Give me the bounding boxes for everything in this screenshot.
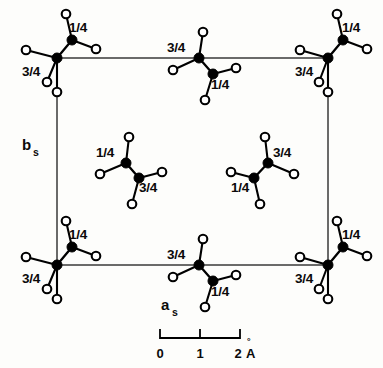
ligand-atom-corner-bottom-right-0-1 — [315, 285, 324, 294]
ligand-atom-corner-top-left-0-2 — [53, 88, 62, 97]
scale-unit-letter: A — [246, 346, 256, 361]
axis-label-b: b s — [22, 136, 39, 158]
height-label-corner-bottom-right-lower: 3/4 — [295, 271, 314, 286]
ligand-atom-corner-top-left-1-1 — [92, 45, 101, 54]
scale-bar: 0 1 2 A ° — [156, 329, 256, 361]
molecule-corner-top-left: 3/41/4 — [22, 10, 101, 97]
central-atom-corner-bottom-right-lower — [323, 260, 333, 270]
ligand-atom-corner-top-right-0-0 — [296, 46, 305, 55]
central-atom-edge-bottom-center-upper — [194, 260, 204, 270]
ligand-atom-corner-top-right-1-1 — [363, 45, 372, 54]
crystal-structure-figure: 3/41/43/41/43/41/41/43/43/41/43/41/43/41… — [0, 0, 383, 368]
ligand-atom-interior-left-1-0 — [158, 168, 167, 177]
ligand-atom-interior-left-1-1 — [128, 200, 137, 209]
ligand-atom-edge-bottom-center-1-0 — [232, 271, 241, 280]
ligand-atom-interior-right-0-0 — [261, 133, 270, 142]
ligand-atom-corner-bottom-left-1-0 — [62, 217, 71, 226]
height-label-corner-top-right-upper: 1/4 — [342, 20, 361, 35]
ligand-atom-corner-bottom-right-0-0 — [296, 253, 305, 262]
central-atom-corner-top-right-upper — [338, 35, 348, 45]
height-label-edge-top-center-upper: 3/4 — [167, 40, 186, 55]
height-label-corner-bottom-left-lower: 3/4 — [22, 271, 41, 286]
central-atom-interior-left-upper — [121, 158, 131, 168]
ligand-atom-corner-top-left-0-0 — [22, 46, 31, 55]
ligand-atom-corner-bottom-left-0-1 — [43, 285, 52, 294]
ligand-atom-edge-bottom-center-0-1 — [169, 273, 178, 282]
axis-b-letter: b — [22, 136, 31, 153]
molecule-interior-left: 1/43/4 — [96, 133, 167, 209]
ligand-atom-edge-bottom-center-1-1 — [201, 303, 210, 312]
ligand-atom-edge-top-center-1-0 — [232, 64, 241, 73]
ligand-atom-edge-top-center-0-1 — [169, 66, 178, 75]
ligand-atom-corner-bottom-right-1-0 — [333, 217, 342, 226]
ligand-atom-interior-left-0-1 — [96, 170, 105, 179]
ligand-atom-edge-top-center-1-1 — [201, 96, 210, 105]
central-atom-corner-bottom-left-lower — [52, 260, 62, 270]
ligand-atom-interior-left-0-0 — [125, 133, 134, 142]
molecule-corner-bottom-right: 3/41/4 — [295, 217, 371, 304]
molecule-layer: 3/41/43/41/43/41/41/43/43/41/43/41/43/41… — [22, 10, 372, 312]
height-label-corner-top-left-lower: 3/4 — [22, 64, 41, 79]
ligand-atom-corner-bottom-right-0-2 — [324, 295, 333, 304]
height-label-edge-bottom-center-lower: 1/4 — [211, 284, 230, 299]
ligand-atom-interior-right-0-1 — [290, 170, 299, 179]
ligand-atom-corner-top-right-1-0 — [333, 10, 342, 19]
axis-a-subscript: s — [172, 306, 178, 318]
ligand-atom-corner-bottom-left-0-2 — [53, 295, 62, 304]
ligand-atom-corner-top-left-1-0 — [62, 10, 71, 19]
ligand-atom-corner-bottom-left-1-1 — [92, 252, 101, 261]
molecule-edge-top-center: 3/41/4 — [167, 28, 240, 105]
axis-b-subscript: s — [33, 146, 39, 158]
angstrom-ring-icon: ° — [247, 336, 251, 346]
scale-bar-line — [160, 329, 240, 338]
molecule-edge-bottom-center: 3/41/4 — [167, 235, 240, 312]
central-atom-corner-bottom-left-upper — [67, 242, 77, 252]
ligand-atom-edge-top-center-0-0 — [199, 28, 208, 37]
height-label-interior-right-upper: 3/4 — [273, 145, 292, 160]
height-label-edge-bottom-center-upper: 3/4 — [167, 247, 186, 262]
central-atom-corner-top-left-lower — [52, 53, 62, 63]
ligand-atom-corner-bottom-right-1-1 — [363, 252, 372, 261]
ligand-atom-interior-right-1-0 — [227, 168, 236, 177]
height-label-interior-left-lower: 3/4 — [139, 180, 158, 195]
molecule-interior-right: 3/41/4 — [227, 133, 299, 209]
height-label-edge-top-center-lower: 1/4 — [211, 77, 230, 92]
height-label-corner-top-right-lower: 3/4 — [295, 64, 314, 79]
ligand-atom-interior-right-1-1 — [256, 200, 265, 209]
axis-a-letter: a — [161, 296, 170, 313]
axis-label-a: a s — [161, 296, 178, 318]
central-atom-corner-top-left-upper — [67, 35, 77, 45]
scale-tick-2: 2 — [234, 346, 241, 361]
molecule-corner-top-right: 3/41/4 — [295, 10, 371, 97]
central-atom-edge-top-center-upper — [194, 53, 204, 63]
ligand-atom-corner-bottom-left-0-0 — [22, 253, 31, 262]
height-label-interior-right-lower: 1/4 — [231, 180, 250, 195]
height-label-corner-top-left-upper: 1/4 — [69, 20, 88, 35]
unit-cell-box — [57, 58, 328, 265]
molecule-corner-bottom-left: 3/41/4 — [22, 217, 101, 304]
height-label-corner-bottom-right-upper: 1/4 — [342, 227, 361, 242]
ligand-atom-corner-top-right-0-2 — [324, 88, 333, 97]
ligand-atom-edge-bottom-center-0-0 — [199, 235, 208, 244]
central-atom-interior-right-lower — [249, 173, 259, 183]
central-atom-corner-bottom-right-upper — [338, 242, 348, 252]
central-atom-corner-top-right-lower — [323, 53, 333, 63]
height-label-interior-left-upper: 1/4 — [96, 145, 115, 160]
structure-canvas: 3/41/43/41/43/41/41/43/43/41/43/41/43/41… — [0, 0, 383, 368]
ligand-atom-corner-top-right-0-1 — [315, 78, 324, 87]
unit-cell-rectangle — [57, 58, 328, 265]
height-label-corner-bottom-left-upper: 1/4 — [69, 227, 88, 242]
ligand-atom-corner-top-left-0-1 — [43, 78, 52, 87]
central-atom-interior-right-upper — [263, 158, 273, 168]
scale-tick-0: 0 — [156, 346, 163, 361]
scale-tick-1: 1 — [196, 346, 203, 361]
